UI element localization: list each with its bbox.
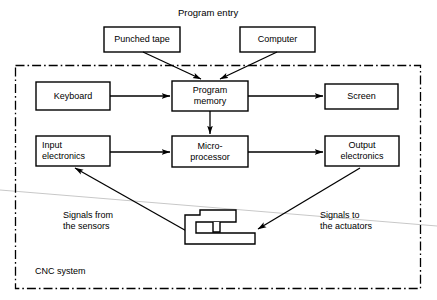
computer-label: Computer [240,27,315,52]
input-electronics-label: Input electronics [36,136,110,166]
machine-tool-spindle [213,222,220,232]
program-memory-label: Program memory [172,81,248,111]
signals-from-sensors-label: Signals from the sensors [63,210,113,232]
microprocessor-label: Micro- processor [172,136,248,167]
keyboard-label: Keyboard [36,82,110,110]
signals-to-actuators-label: Signals to the actuators [320,210,372,232]
output-electronics-label: Output electronics [325,136,399,166]
screen-label: Screen [325,84,398,109]
cnc-system-label: CNC system [35,266,86,277]
diagram-title: Program entry [178,7,238,18]
punched-tape-label: Punched tape [104,27,180,52]
cnc-system-diagram: Program entry Punched tape Computer Keyb… [0,0,437,300]
